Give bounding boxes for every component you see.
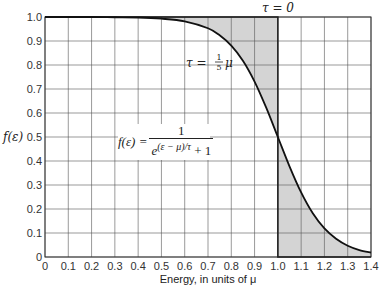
y-tick-label: 0.9	[27, 35, 42, 47]
tau-zero-label: τ = 0	[262, 1, 294, 15]
formula-numerator: 1	[149, 124, 213, 139]
tau-fifth-mu: μ	[225, 56, 233, 70]
y-tick-label: 1.0	[27, 11, 42, 23]
tau-fifth-numerator: 1	[216, 53, 221, 62]
x-tick-label: 0	[42, 260, 48, 272]
x-tick-label: 1.4	[363, 260, 378, 272]
tau-fifth-label: τ = 1 5 μ	[186, 53, 233, 72]
x-tick-label: 1.0	[270, 260, 285, 272]
y-tick-label: 0.1	[27, 227, 42, 239]
y-tick-label: 0.6	[27, 107, 42, 119]
x-axis-ticks: 00.10.20.30.40.50.60.70.80.91.01.11.21.3…	[42, 260, 379, 272]
formula-lhs: f(ε) =	[118, 134, 147, 150]
x-tick-label: 0.1	[61, 260, 76, 272]
y-tick-label: 0.4	[27, 155, 42, 167]
x-tick-label: 0.4	[130, 260, 145, 272]
formula-exponent: (ε − μ)/τ	[157, 141, 191, 152]
x-tick-label: 0.8	[224, 260, 239, 272]
x-tick-label: 1.2	[317, 260, 332, 272]
formula-plus-one: + 1	[194, 143, 211, 158]
y-tick-label: 0.7	[27, 83, 42, 95]
fermi-dirac-formula: f(ε) = 1 e(ε − μ)/τ + 1	[118, 124, 211, 159]
x-tick-label: 0.7	[200, 260, 215, 272]
x-tick-label: 0.2	[84, 260, 99, 272]
x-tick-label: 0.6	[177, 260, 192, 272]
formula-denominator: e(ε − μ)/τ + 1	[151, 139, 211, 159]
x-tick-label: 1.3	[340, 260, 355, 272]
y-tick-label: 0.5	[27, 131, 42, 143]
x-tick-label: 1.1	[293, 260, 308, 272]
x-tick-label: 0.3	[107, 260, 122, 272]
tau-fifth-prefix: τ =	[186, 56, 207, 70]
formula-fraction: 1 e(ε − μ)/τ + 1	[151, 124, 211, 159]
y-tick-label: 0.3	[27, 179, 42, 191]
y-tick-label: 0.8	[27, 59, 42, 71]
x-tick-label: 0.9	[247, 260, 262, 272]
tau-fifth-denominator: 5	[216, 63, 221, 72]
y-axis-ticks: 00.10.20.30.40.50.60.70.80.91.0	[27, 11, 42, 263]
y-tick-label: 0.2	[27, 203, 42, 215]
x-axis-label: Energy, in units of μ	[160, 273, 257, 285]
x-tick-label: 0.5	[154, 260, 169, 272]
y-axis-label: f(ε)	[2, 130, 24, 144]
